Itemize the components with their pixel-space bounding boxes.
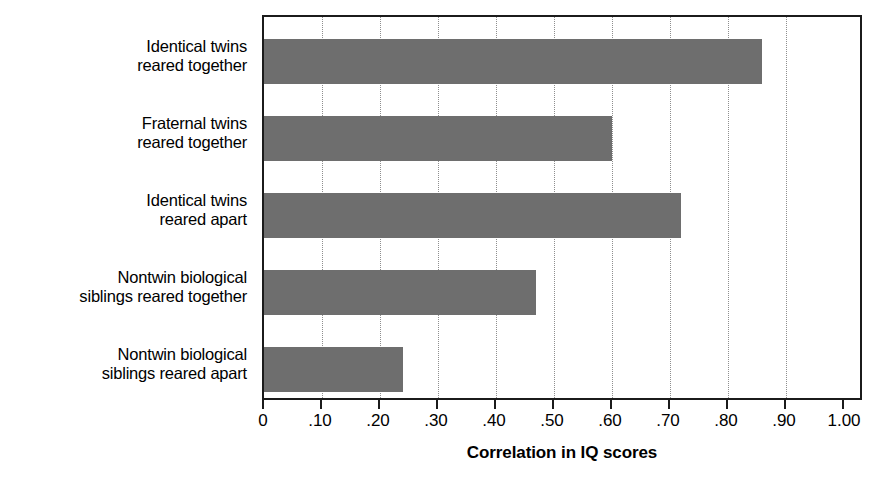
tick-0 xyxy=(262,400,264,409)
category-label-fraternal-twins-reared-together: Fraternal twins reared together xyxy=(0,114,247,152)
category-label-identical-twins-reared-together: Identical twins reared together xyxy=(0,37,247,75)
tick-0.10 xyxy=(320,400,322,409)
tick-label-0.40: .40 xyxy=(482,410,506,432)
tick-label-0.30: .30 xyxy=(424,410,448,432)
tick-label-0.90: .90 xyxy=(772,410,796,432)
tick-label-0.70: .70 xyxy=(656,410,680,432)
tick-0.70 xyxy=(668,400,670,409)
tick-label-0.80: .80 xyxy=(714,410,738,432)
bar-nontwin-siblings-reared-together xyxy=(264,270,536,315)
category-label-nontwin-siblings-reared-together: Nontwin biological siblings reared toget… xyxy=(0,268,247,306)
plot-area xyxy=(262,15,862,400)
tick-label-1.00: 1.00 xyxy=(827,410,860,432)
tick-label-0.60: .60 xyxy=(598,410,622,432)
x-axis-ticks xyxy=(262,400,862,410)
bar-nontwin-siblings-reared-apart xyxy=(264,347,403,392)
bar-identical-twins-reared-apart xyxy=(264,193,681,238)
tick-0.60 xyxy=(610,400,612,409)
tick-0.50 xyxy=(552,400,554,409)
bar-chart: Identical twins reared together Fraterna… xyxy=(0,0,881,480)
tick-label-0.10: .10 xyxy=(308,410,332,432)
tick-0.40 xyxy=(494,400,496,409)
tick-0.30 xyxy=(436,400,438,409)
x-axis-tick-labels: 0 .10 .20 .30 .40 .50 .60 .70 .80 .90 1.… xyxy=(262,410,862,436)
tick-label-0: 0 xyxy=(258,410,267,432)
bar-identical-twins-reared-together xyxy=(264,39,762,84)
bar-fraternal-twins-reared-together xyxy=(264,116,612,161)
tick-0.80 xyxy=(726,400,728,409)
x-axis-title: Correlation in IQ scores xyxy=(262,443,862,463)
gridline-0.90 xyxy=(786,17,788,398)
tick-label-0.20: .20 xyxy=(366,410,390,432)
category-axis-labels: Identical twins reared together Fraterna… xyxy=(0,15,255,400)
tick-0.20 xyxy=(378,400,380,409)
category-label-nontwin-siblings-reared-apart: Nontwin biological siblings reared apart xyxy=(0,345,247,383)
category-label-identical-twins-reared-apart: Identical twins reared apart xyxy=(0,191,247,229)
tick-label-0.50: .50 xyxy=(540,410,564,432)
tick-1.00 xyxy=(842,400,844,409)
tick-0.90 xyxy=(784,400,786,409)
